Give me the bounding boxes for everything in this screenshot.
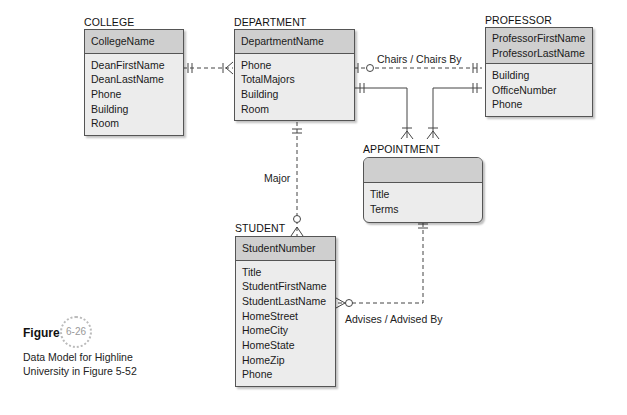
figure-caption: Data Model for Highline University in Fi… bbox=[23, 350, 137, 378]
key-section: DepartmentName bbox=[235, 30, 354, 54]
attribute-section: DeanFirstName DeanLastName Phone Buildin… bbox=[85, 54, 183, 136]
key-section: CollegeName bbox=[85, 30, 183, 54]
attribute: Phone bbox=[242, 367, 329, 382]
attribute: Phone bbox=[241, 58, 348, 73]
entity-college[interactable]: CollegeName DeanFirstName DeanLastName P… bbox=[84, 29, 184, 136]
attribute: Room bbox=[91, 116, 177, 131]
relationship-label-chairs: Chairs / Chairs By bbox=[377, 53, 462, 65]
attribute: Building bbox=[241, 87, 348, 102]
key-attribute: CollegeName bbox=[91, 34, 177, 49]
figure-number: 6-26 bbox=[60, 316, 92, 348]
caption-line: University in Figure 5-52 bbox=[23, 364, 137, 378]
attribute: HomeCity bbox=[242, 323, 329, 338]
attribute: TotalMajors bbox=[241, 72, 348, 87]
attribute: Terms bbox=[370, 202, 476, 217]
relationship-label-advises: Advises / Advised By bbox=[345, 313, 442, 325]
attribute: HomeStreet bbox=[242, 309, 329, 324]
relationship-label-major: Major bbox=[264, 172, 290, 184]
attribute: Title bbox=[370, 187, 476, 202]
attribute: HomeZip bbox=[242, 353, 329, 368]
attribute: Building bbox=[91, 102, 177, 117]
attribute: DeanLastName bbox=[91, 72, 177, 87]
attribute: Room bbox=[241, 102, 348, 117]
attribute: HomeState bbox=[242, 338, 329, 353]
key-section: StudentNumber bbox=[236, 237, 335, 261]
key-attribute: ProfessorLastName bbox=[492, 46, 586, 61]
attribute: Phone bbox=[91, 87, 177, 102]
attribute: DeanFirstName bbox=[91, 58, 177, 73]
attribute-section: Title Terms bbox=[364, 183, 482, 222]
attribute-section: Title StudentFirstName StudentLastName H… bbox=[236, 261, 335, 387]
key-section: ProfessorFirstName ProfessorLastName bbox=[486, 28, 592, 64]
entity-title-college: COLLEGE bbox=[84, 16, 134, 28]
entity-professor[interactable]: ProfessorFirstName ProfessorLastName Bui… bbox=[485, 27, 593, 117]
attribute: StudentLastName bbox=[242, 294, 329, 309]
entity-title-appointment: APPOINTMENT bbox=[363, 143, 440, 155]
attribute-section: Building OfficeNumber Phone bbox=[486, 64, 592, 116]
attribute: StudentFirstName bbox=[242, 279, 329, 294]
attribute: OfficeNumber bbox=[492, 83, 586, 98]
attribute-section: Phone TotalMajors Building Room bbox=[235, 54, 354, 121]
key-attribute: StudentNumber bbox=[242, 241, 329, 256]
entity-department[interactable]: DepartmentName Phone TotalMajors Buildin… bbox=[234, 29, 355, 121]
key-section bbox=[364, 158, 482, 183]
figure-label: Figure bbox=[23, 326, 60, 340]
key-attribute: ProfessorFirstName bbox=[492, 31, 586, 46]
entity-appointment[interactable]: Title Terms bbox=[363, 157, 483, 223]
entity-student[interactable]: StudentNumber Title StudentFirstName Stu… bbox=[235, 236, 336, 387]
key-attribute: DepartmentName bbox=[241, 34, 348, 49]
attribute: Building bbox=[492, 68, 586, 83]
attribute: Phone bbox=[492, 97, 586, 112]
entity-title-professor: PROFESSOR bbox=[485, 14, 552, 26]
caption-line: Data Model for Highline bbox=[23, 350, 137, 364]
entity-title-student: STUDENT bbox=[235, 222, 285, 234]
attribute: Title bbox=[242, 265, 329, 280]
entity-title-department: DEPARTMENT bbox=[234, 16, 306, 28]
